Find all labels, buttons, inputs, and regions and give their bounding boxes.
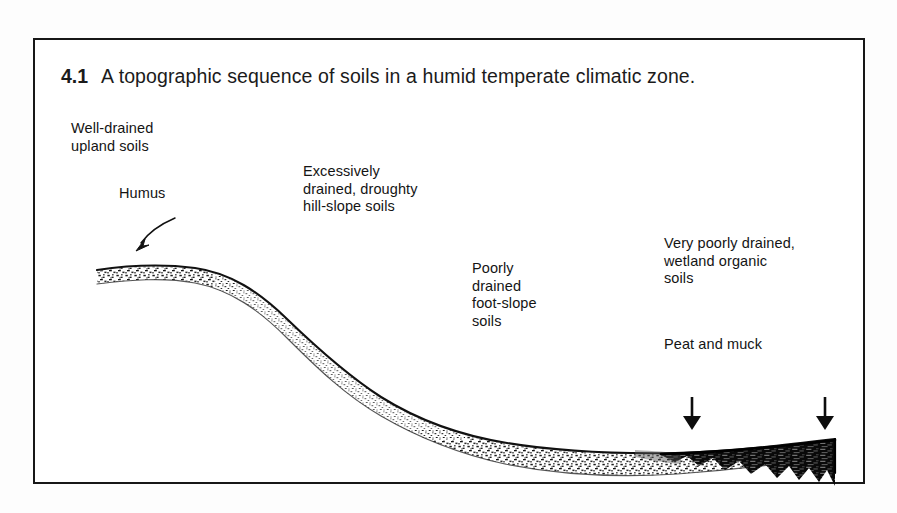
label-humus: Humus — [119, 185, 165, 203]
peat-arrow-right — [816, 397, 834, 430]
humus-leader-arrow — [141, 218, 175, 243]
label-very-poorly-drained-wetland: Very poorly drained, wetland organic soi… — [664, 235, 795, 288]
label-peat-and-muck: Peat and muck — [664, 336, 762, 354]
ground-surface-line — [97, 266, 835, 454]
peat-arrow-left — [683, 397, 701, 430]
label-well-drained-upland-soils: Well-drained upland soils — [71, 120, 153, 155]
label-poorly-drained-footslope: Poorly drained foot-slope soils — [472, 260, 537, 330]
figure-root: 4.1A topographic sequence of soils in a … — [0, 0, 897, 513]
label-excessively-drained-soils: Excessively drained, droughty hill-slope… — [303, 163, 418, 216]
figure-frame: 4.1A topographic sequence of soils in a … — [33, 38, 865, 484]
